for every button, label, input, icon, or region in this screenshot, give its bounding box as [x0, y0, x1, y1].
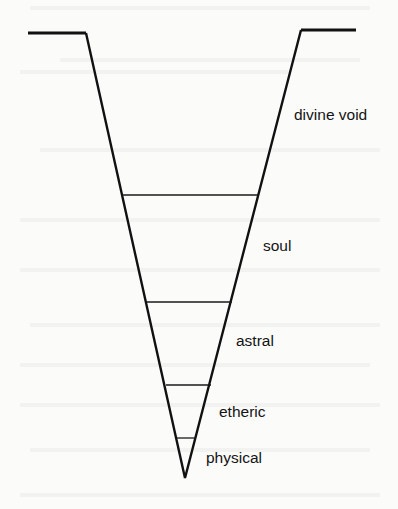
label-physical: physical: [206, 449, 262, 466]
cone-diagram: divine void soul astral etheric physical: [0, 0, 398, 509]
cone-outline: [86, 30, 301, 478]
diagram-svg: divine void soul astral etheric physical: [0, 0, 398, 509]
label-divine-void: divine void: [294, 106, 367, 123]
label-soul: soul: [263, 237, 291, 254]
label-astral: astral: [236, 332, 274, 349]
label-etheric: etheric: [219, 403, 266, 420]
